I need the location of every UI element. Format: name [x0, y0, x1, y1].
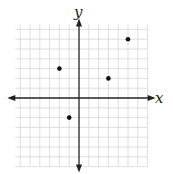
data-point	[126, 37, 131, 42]
y-axis-arrow-down-icon	[76, 165, 82, 173]
coordinate-plane: x y	[0, 0, 173, 174]
x-axis-arrow-left-icon	[7, 95, 15, 101]
y-axis-label: y	[73, 3, 83, 21]
data-point	[106, 76, 111, 81]
grid-lines	[15, 25, 147, 167]
x-axis-label: x	[155, 89, 164, 107]
axes	[7, 19, 155, 173]
data-point	[67, 115, 72, 120]
data-point	[57, 66, 62, 71]
